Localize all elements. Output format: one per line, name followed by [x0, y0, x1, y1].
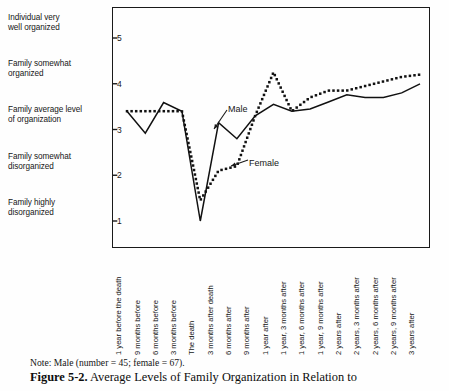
figure-number: Figure 5-2.: [30, 370, 88, 384]
y-tick-label-4: 4: [117, 79, 122, 89]
x-category-label-16: 3 years after: [408, 313, 416, 355]
x-category-label-10: 1 year, 6 months after: [298, 282, 306, 355]
y-axis-category-labels: Individual very well organized Family so…: [4, 0, 112, 250]
x-category-label-6: 6 months after: [225, 306, 233, 355]
y-category-label-3-line2: of organization: [8, 115, 112, 125]
y-category-label-1-line1: Family highly: [8, 198, 112, 208]
x-category-label-11: 1 year, 9 months after: [317, 282, 325, 355]
y-category-label-1-line2: disorganized: [8, 208, 112, 218]
y-tick-label-1: 1: [117, 216, 122, 226]
y-category-label-4-line2: organized: [8, 69, 112, 79]
y-category-label-4-line1: Family somewhat: [8, 59, 112, 69]
y-category-label-2: Family somewhat disorganized: [8, 152, 112, 172]
x-category-label-13: 2 years, 3 months after: [353, 277, 361, 355]
y-category-label-2-line1: Family somewhat: [8, 152, 112, 162]
figure-caption: Figure 5-2. Average Levels of Family Org…: [30, 370, 357, 385]
y-category-label-3: Family average level of organization: [8, 105, 112, 125]
y-category-label-4: Family somewhat organized: [8, 59, 112, 79]
y-category-label-2-line2: disorganized: [8, 162, 112, 172]
x-category-label-0: 1 year before the death: [115, 276, 123, 355]
y-category-label-1: Family highly disorganized: [8, 198, 112, 218]
x-category-label-8: 1 year after: [262, 317, 270, 355]
y-category-label-5-line2: well organized: [8, 23, 112, 33]
x-category-label-12: 2 years after: [335, 313, 343, 355]
series-label-female: Female: [249, 158, 279, 168]
y-category-label-5: Individual very well organized: [8, 13, 112, 33]
x-category-label-9: 1 year, 3 months after: [280, 282, 288, 355]
x-category-label-15: 2 years, 9 months after: [390, 277, 398, 355]
x-category-label-5: 3 months after death: [207, 285, 215, 355]
y-tick-label-2: 2: [117, 170, 122, 180]
figure-note: Note: Male (number = 45; female = 67).: [30, 357, 185, 368]
figure-container: Individual very well organized Family so…: [0, 0, 449, 391]
x-category-label-3: 3 months before: [170, 300, 178, 355]
x-category-label-7: 9 months after: [243, 306, 251, 355]
x-category-label-14: 2 years, 6 months after: [372, 277, 380, 355]
y-tick-label-3: 3: [117, 125, 122, 135]
x-category-label-2: 6 months before: [152, 300, 160, 355]
y-category-label-5-line1: Individual very: [8, 13, 112, 23]
figure-title: Average Levels of Family Organization in…: [90, 370, 357, 384]
x-category-label-4: The death: [188, 321, 196, 355]
x-axis-category-labels: 1 year before the death9 months before6 …: [112, 250, 432, 355]
y-category-label-3-line1: Family average level: [8, 105, 112, 115]
y-tick-label-5: 5: [117, 33, 122, 43]
x-category-label-1: 9 months before: [134, 300, 142, 355]
plot-area-frame: [112, 7, 430, 248]
series-label-male: Male: [228, 104, 248, 114]
